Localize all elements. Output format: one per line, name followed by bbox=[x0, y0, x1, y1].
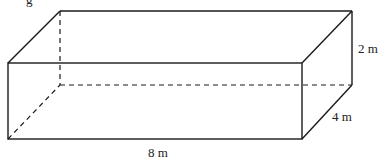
rectangular-prism-diagram: g 2 m 4 m 8 m bbox=[0, 0, 383, 162]
length-label: 8 m bbox=[148, 145, 168, 160]
top-left-edge bbox=[8, 11, 60, 63]
height-label: 2 m bbox=[358, 41, 378, 56]
width-label: 4 m bbox=[332, 109, 352, 124]
top-right-edge bbox=[302, 11, 352, 63]
hidden-bottom-left-depth-edge bbox=[8, 85, 60, 139]
partial-caption: g bbox=[26, 0, 33, 7]
front-face bbox=[8, 63, 302, 139]
